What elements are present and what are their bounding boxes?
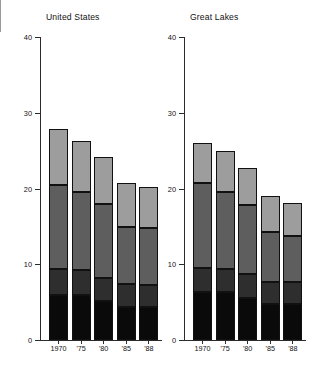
bar-segment — [283, 236, 302, 281]
x-axis-tick-label: '88 — [133, 344, 164, 353]
bar-segment — [117, 307, 136, 340]
panel-great-lakes: Great Lakes0102030401970'75'80'85'88 — [162, 0, 313, 369]
y-axis-line — [40, 37, 41, 341]
y-axis-line — [184, 37, 185, 341]
y-axis-tick — [179, 264, 184, 265]
bar-segment — [49, 295, 68, 340]
y-axis-tick-label: 0 — [160, 336, 176, 345]
bar-segment — [216, 292, 235, 340]
y-axis-tick — [179, 340, 184, 341]
page-left-rule — [0, 0, 1, 32]
y-axis-tick — [35, 113, 40, 114]
panel-united-states: United States0102030401970'75'80'85'88 — [18, 0, 162, 369]
bar-segment — [117, 183, 136, 227]
bar-segment — [72, 192, 91, 269]
y-axis-tick — [179, 37, 184, 38]
bar-segment — [139, 187, 158, 228]
y-axis-tick — [35, 264, 40, 265]
bar-segment — [261, 232, 280, 282]
bar-1970 — [49, 0, 68, 340]
bar-segment — [139, 307, 158, 340]
bar-segment — [139, 285, 158, 308]
y-axis-tick-label: 40 — [160, 33, 176, 42]
bar-segment — [94, 278, 113, 301]
bar-segment — [193, 292, 212, 340]
bar-75 — [216, 0, 235, 340]
bar-segment — [49, 129, 68, 184]
bar-segment — [261, 304, 280, 340]
bar-segment — [94, 204, 113, 278]
bar-segment — [238, 298, 257, 340]
bar-segment — [49, 269, 68, 295]
bar-segment — [193, 268, 212, 291]
bar-segment — [117, 284, 136, 307]
bar-88 — [139, 0, 158, 340]
y-axis-tick-label: 30 — [160, 109, 176, 118]
y-axis-tick — [179, 113, 184, 114]
bar-segment — [261, 196, 280, 232]
y-axis-tick — [35, 340, 40, 341]
bar-segment — [283, 203, 302, 236]
bar-88 — [283, 0, 302, 340]
bar-segment — [216, 269, 235, 292]
y-axis-tick — [35, 37, 40, 38]
bar-1970 — [193, 0, 212, 340]
y-axis-tick-label: 10 — [16, 260, 32, 269]
bar-segment — [238, 274, 257, 298]
y-axis-tick-label: 30 — [16, 109, 32, 118]
bar-segment — [283, 282, 302, 305]
bar-segment — [94, 157, 113, 204]
bar-segment — [49, 185, 68, 269]
bar-85 — [261, 0, 280, 340]
bar-segment — [139, 228, 158, 285]
y-axis-tick-label: 40 — [16, 33, 32, 42]
bar-segment — [72, 295, 91, 340]
y-axis-tick-label: 0 — [16, 336, 32, 345]
bar-segment — [238, 168, 257, 205]
y-axis-tick-label: 20 — [16, 185, 32, 194]
figure-root: United States0102030401970'75'80'85'88 G… — [0, 0, 313, 369]
bar-80 — [94, 0, 113, 340]
bar-segment — [261, 282, 280, 304]
bar-segment — [216, 192, 235, 269]
bar-segment — [72, 141, 91, 193]
bar-85 — [117, 0, 136, 340]
bar-segment — [117, 227, 136, 284]
y-axis-tick — [35, 189, 40, 190]
bar-segment — [283, 304, 302, 340]
y-axis-tick-label: 20 — [160, 185, 176, 194]
bar-segment — [94, 301, 113, 340]
bar-segment — [216, 151, 235, 191]
bar-segment — [238, 205, 257, 274]
bar-segment — [72, 270, 91, 295]
y-axis-tick — [179, 189, 184, 190]
bar-75 — [72, 0, 91, 340]
y-axis-tick-label: 10 — [160, 260, 176, 269]
x-axis-tick-label: '88 — [277, 344, 308, 353]
bar-80 — [238, 0, 257, 340]
bar-segment — [193, 143, 212, 183]
bar-segment — [193, 183, 212, 268]
